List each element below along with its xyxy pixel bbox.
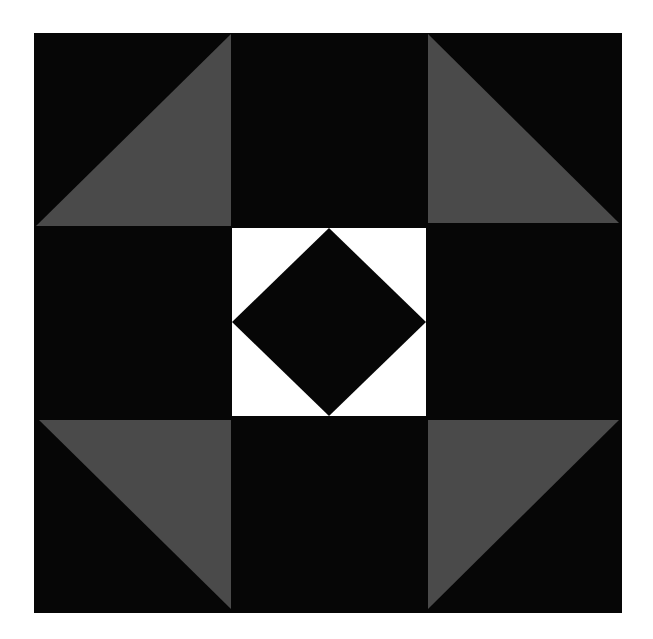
quilt-block bbox=[0, 0, 653, 639]
